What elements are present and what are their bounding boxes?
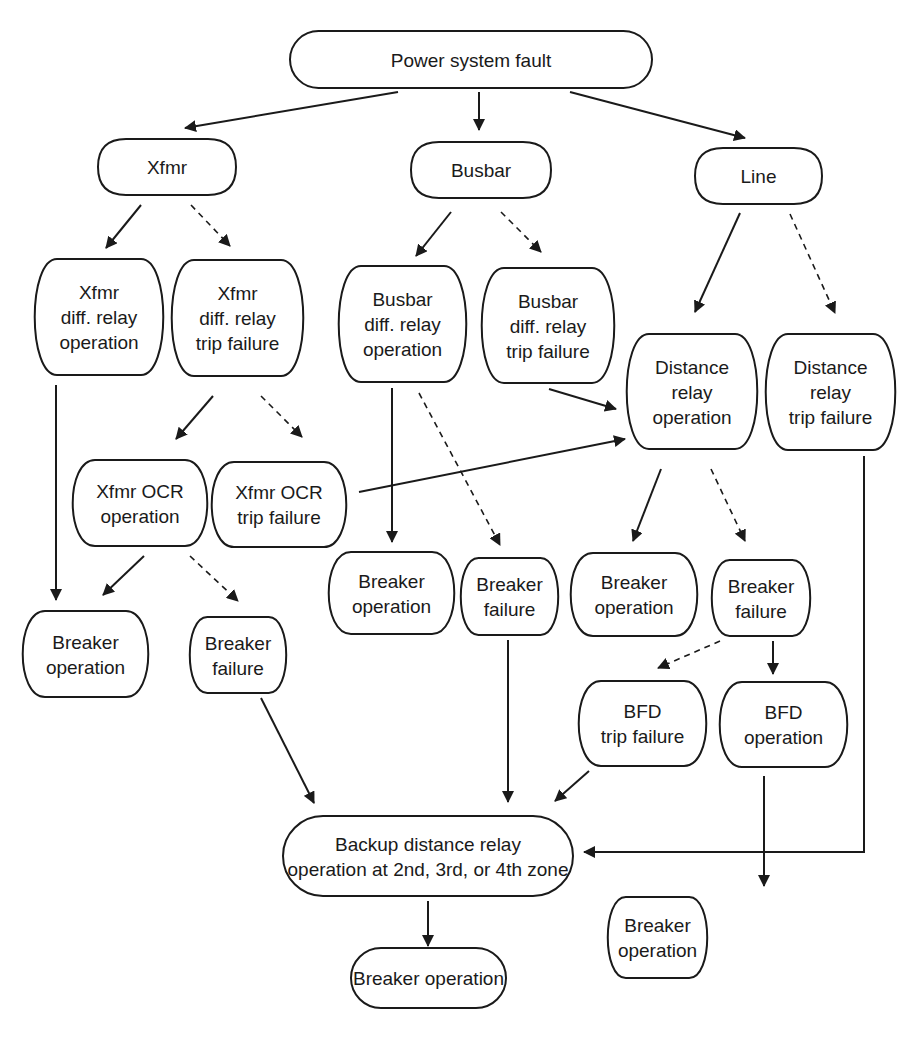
edge-arrow-brk_fail_dist-to-bfd_fail — [658, 641, 720, 668]
node-label-line: Distance — [655, 357, 729, 378]
edge-arrow-xfmr_diff_fail-to-xfmr_ocr_fail — [261, 396, 302, 437]
node-label-line: operation — [744, 727, 823, 748]
node-label-line: diff. relay — [510, 316, 587, 337]
edge-arrow-xfmr-to-xfmr_diff_op — [106, 205, 141, 248]
node-label-line: Xfmr OCR — [235, 482, 323, 503]
edge-arrow-fault-to-xfmr — [185, 92, 398, 128]
node-fault: Power system fault — [290, 31, 652, 88]
node-label-line: Power system fault — [391, 50, 552, 71]
edge-arrow-busbar-to-busbar_diff_fail — [501, 212, 541, 252]
edge-arrow-line-to-dist_fail — [790, 214, 835, 313]
node-shape — [461, 558, 558, 635]
node-shape — [190, 617, 286, 693]
node-bfd-op: BFDoperation — [720, 682, 848, 767]
node-xfmr: Xfmr — [98, 139, 236, 195]
node-label-line: relay — [671, 382, 713, 403]
node-label-line: diff. relay — [61, 307, 138, 328]
node-shape — [23, 611, 149, 697]
edge-arrow-dist_op-to-brk_op_dist — [633, 469, 661, 541]
node-label-line: Distance — [794, 357, 868, 378]
node-label-line: Backup distance relay — [335, 834, 521, 855]
node-label-line: operation — [594, 597, 673, 618]
edge-arrow-xfmr_ocr_op-to-brk_fail_left — [190, 556, 238, 601]
edge-arrow-busbar_diff_op-to-brk_fail_busbar — [419, 393, 500, 545]
node-brk-op-bottom: Breaker operation — [351, 948, 506, 1008]
node-busbar-diff-op: Busbardiff. relayoperation — [339, 266, 467, 382]
node-label-line: trip failure — [237, 507, 320, 528]
node-label-line: operation — [352, 596, 431, 617]
node-xfmr-diff-fail: Xfmrdiff. relaytrip failure — [172, 260, 304, 376]
node-brk-op-busbar: Breakeroperation — [329, 552, 455, 634]
node-dist-fail: Distancerelaytrip failure — [766, 334, 896, 450]
node-label-line: Line — [741, 166, 777, 187]
edge-arrow-dist_fail-to-backup — [584, 456, 864, 852]
node-label-line: relay — [810, 382, 852, 403]
node-shape — [73, 460, 208, 546]
node-label-line: Busbar — [451, 160, 512, 181]
node-dist-op: Distancerelayoperation — [627, 334, 758, 449]
node-brk-op-left: Breakeroperation — [23, 611, 149, 697]
node-brk-op-dist: Breakeroperation — [571, 553, 698, 636]
node-label-line: operation at 2nd, 3rd, or 4th zone — [288, 859, 569, 880]
node-label-line: Breaker — [205, 633, 272, 654]
edge-arrow-xfmr-to-xfmr_diff_fail — [191, 205, 230, 246]
edge-arrow-line-to-dist_op — [695, 213, 740, 312]
node-label-line: trip failure — [196, 333, 279, 354]
edge-arrow-bfd_fail-to-backup — [555, 771, 589, 801]
node-label-line: BFD — [765, 702, 803, 723]
node-shape — [720, 682, 848, 767]
node-label-line: operation — [46, 657, 125, 678]
node-label-line: Breaker — [601, 572, 668, 593]
node-label-line: operation — [363, 339, 442, 360]
node-xfmr-diff-op: Xfmrdiff. relayoperation — [35, 259, 164, 375]
node-label-line: Xfmr — [147, 157, 188, 178]
node-label-line: Breaker — [358, 571, 425, 592]
node-label-line: Busbar — [372, 289, 433, 310]
node-label-line: Breaker operation — [353, 968, 504, 989]
edge-arrow-fault-to-line — [570, 92, 745, 138]
node-label-line: trip failure — [789, 407, 872, 428]
node-label-line: failure — [484, 599, 536, 620]
edge-arrow-busbar-to-busbar_diff_op — [416, 212, 451, 256]
node-label-line: Breaker — [52, 632, 119, 653]
node-brk-fail-busbar: Breakerfailure — [461, 558, 558, 635]
node-line: Line — [695, 148, 822, 204]
node-brk-fail-left: Breakerfailure — [190, 617, 286, 693]
node-label-line: Breaker — [728, 576, 795, 597]
fault-protection-flowchart: Power system faultXfmrBusbarLineXfmrdiff… — [0, 0, 915, 1038]
node-bfd-fail: BFDtrip failure — [579, 681, 707, 766]
edge-arrow-brk_fail_left-to-backup — [261, 698, 314, 803]
edge-arrow-xfmr_ocr_fail-to-dist_op — [359, 439, 625, 492]
node-shape — [283, 816, 573, 896]
node-label-line: Xfmr — [217, 283, 258, 304]
edge-arrow-busbar_diff_fail-to-dist_op — [549, 389, 616, 409]
node-label-line: Breaker — [624, 915, 691, 936]
node-label-line: trip failure — [601, 726, 684, 747]
node-label-line: operation — [618, 940, 697, 961]
node-label-line: diff. relay — [199, 308, 276, 329]
node-label-line: operation — [652, 407, 731, 428]
node-label-line: Busbar — [518, 291, 579, 312]
node-label-line: Breaker — [476, 574, 543, 595]
node-brk-fail-dist: Breakerfailure — [712, 560, 810, 636]
node-xfmr-ocr-op: Xfmr OCRoperation — [73, 460, 208, 546]
node-label-line: trip failure — [506, 341, 589, 362]
node-shape — [212, 462, 347, 547]
node-backup: Backup distance relayoperation at 2nd, 3… — [283, 816, 573, 896]
node-label-line: operation — [59, 332, 138, 353]
node-label-line: failure — [735, 601, 787, 622]
node-label-line: failure — [212, 658, 264, 679]
edge-arrow-dist_op-to-brk_fail_dist — [711, 469, 745, 541]
node-xfmr-ocr-fail: Xfmr OCRtrip failure — [212, 462, 347, 547]
node-label-line: diff. relay — [364, 314, 441, 335]
node-shape — [571, 553, 698, 636]
node-label-line: operation — [100, 506, 179, 527]
node-shape — [608, 897, 707, 978]
node-busbar-diff-fail: Busbardiff. relaytrip failure — [482, 268, 615, 383]
node-label-line: Xfmr — [79, 282, 120, 303]
node-busbar: Busbar — [411, 142, 551, 198]
node-label-line: Xfmr OCR — [96, 481, 184, 502]
node-shape — [579, 681, 707, 766]
edge-arrow-xfmr_ocr_op-to-brk_op_left — [103, 556, 144, 595]
edge-arrow-xfmr_diff_fail-to-xfmr_ocr_op — [176, 396, 213, 439]
